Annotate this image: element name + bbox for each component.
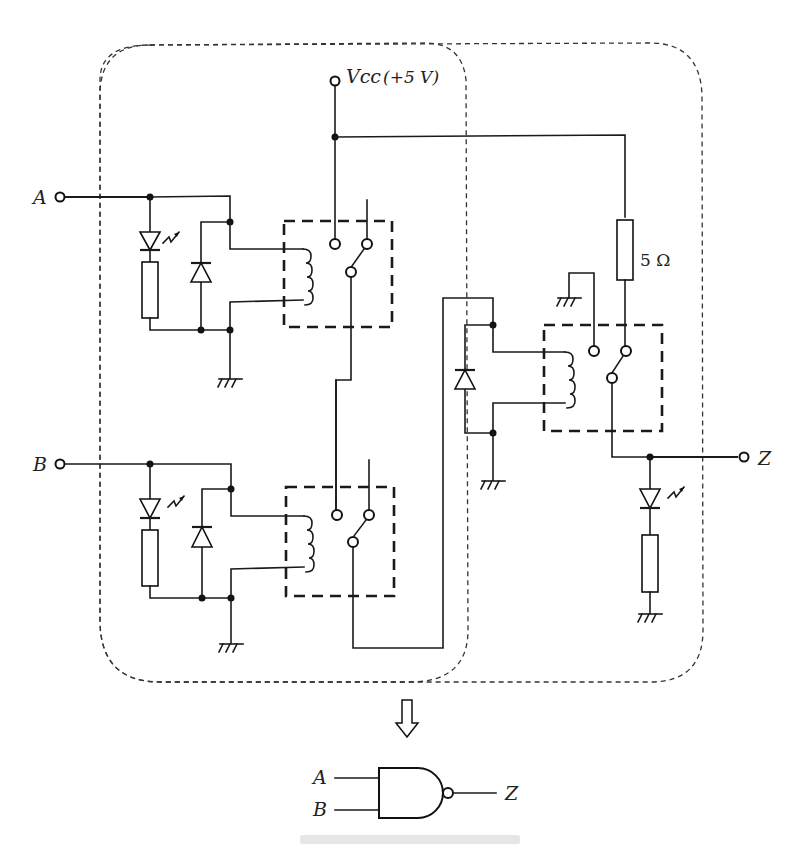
figure-caption-illegible [300,835,520,844]
gate-output-z-label: Z [504,782,519,804]
ground-icon [219,644,243,652]
relay-a [284,221,392,327]
relay-coil-out [565,352,575,408]
ground-icon [481,481,505,489]
vcc-supply: Vcc(+5 V) [331,65,626,217]
relay-coil-a [303,249,313,305]
circuit-boundary-right [100,43,703,682]
pullup-resistor: 5 Ω [617,220,670,348]
ground-icon [218,379,242,387]
gate-input-b-label: B [312,798,327,820]
input-b-stage: B [32,298,493,652]
resistor-value-label: 5 Ω [640,250,670,270]
output-stage: Z [455,273,772,622]
input-a-terminal[interactable] [56,193,65,202]
gate-input-a-label: A [311,766,327,788]
output-z-label: Z [757,447,772,469]
input-a-label: A [31,186,47,208]
input-a-stage: A [31,137,392,520]
output-z-terminal[interactable] [740,453,749,462]
down-arrow-icon [396,700,418,737]
input-b-label: B [32,453,47,475]
ground-icon [638,614,662,622]
input-b-terminal[interactable] [56,460,65,469]
relay-coil-b [304,516,314,572]
relay-nand-schematic: Vcc(+5 V) 5 Ω A [0,0,807,851]
relay-out [544,325,662,431]
vcc-label: Vcc(+5 V) [346,65,439,87]
ground-icon [557,298,581,306]
relay-b [286,487,394,596]
nand-gate-symbol: A B Z [311,766,519,820]
